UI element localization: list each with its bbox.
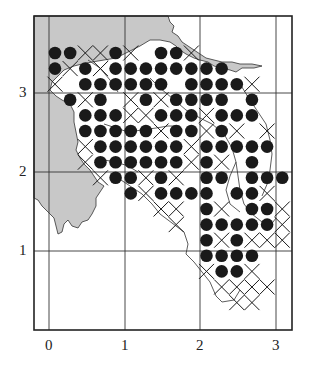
dot-marker-icon <box>231 218 244 231</box>
cross-marker-icon <box>260 186 275 201</box>
dot-marker-icon <box>94 78 107 91</box>
dot-marker-icon <box>185 78 198 91</box>
dot-marker-icon <box>124 78 137 91</box>
dot-marker-icon <box>215 172 228 185</box>
dot-marker-icon <box>170 187 183 200</box>
dot-marker-icon <box>246 140 259 153</box>
dot-marker-icon <box>200 250 213 263</box>
x-tick-label: 2 <box>196 338 204 353</box>
dot-marker-icon <box>246 187 259 200</box>
dot-marker-icon <box>231 250 244 263</box>
dot-marker-icon <box>246 94 259 107</box>
cross-marker-icon <box>199 124 214 139</box>
cross-marker-icon <box>154 124 169 139</box>
distribution-map <box>0 0 310 380</box>
dot-marker-icon <box>170 62 183 75</box>
cross-marker-icon <box>78 139 93 154</box>
dot-marker-icon <box>94 156 107 169</box>
dot-marker-icon <box>109 47 122 60</box>
dot-marker-icon <box>231 234 244 247</box>
cross-marker-icon <box>169 217 184 232</box>
dot-marker-icon <box>49 47 62 60</box>
dot-marker-icon <box>215 78 228 91</box>
dot-marker-icon <box>155 156 168 169</box>
cross-marker-icon <box>214 233 229 248</box>
dot-marker-icon <box>79 125 92 138</box>
cross-marker-icon <box>244 295 259 310</box>
cross-marker-icon <box>260 233 275 248</box>
dot-marker-icon <box>109 78 122 91</box>
dot-marker-icon <box>185 62 198 75</box>
dot-marker-icon <box>261 140 274 153</box>
dot-marker-icon <box>140 78 153 91</box>
dot-marker-icon <box>246 218 259 231</box>
dot-marker-icon <box>155 187 168 200</box>
dot-marker-icon <box>155 140 168 153</box>
cross-marker-icon <box>229 280 244 295</box>
dot-marker-icon <box>170 109 183 122</box>
dot-marker-icon <box>231 78 244 91</box>
dot-marker-icon <box>231 140 244 153</box>
dot-marker-icon <box>170 125 183 138</box>
cross-marker-icon <box>244 280 259 295</box>
dot-marker-icon <box>155 78 168 91</box>
dot-marker-icon <box>124 187 137 200</box>
dot-marker-icon <box>124 156 137 169</box>
x-tick-label: 1 <box>121 338 129 353</box>
dot-marker-icon <box>155 109 168 122</box>
dot-marker-icon <box>185 109 198 122</box>
cross-marker-icon <box>275 233 290 248</box>
dot-marker-icon <box>109 156 122 169</box>
dot-marker-icon <box>94 94 107 107</box>
dot-marker-icon <box>170 47 183 60</box>
dot-marker-icon <box>231 109 244 122</box>
dot-marker-icon <box>64 47 77 60</box>
y-tick-label: 1 <box>19 243 27 258</box>
dot-marker-icon <box>185 187 198 200</box>
dot-marker-icon <box>215 218 228 231</box>
dot-marker-icon <box>170 94 183 107</box>
dot-marker-icon <box>215 250 228 263</box>
dot-marker-icon <box>140 140 153 153</box>
x-tick-label: 3 <box>272 338 280 353</box>
cross-marker-icon <box>123 92 138 107</box>
cross-marker-icon <box>214 155 229 170</box>
dot-marker-icon <box>200 78 213 91</box>
dot-marker-icon <box>170 140 183 153</box>
dot-marker-icon <box>200 94 213 107</box>
dot-marker-icon <box>79 109 92 122</box>
dot-marker-icon <box>200 172 213 185</box>
cross-marker-icon <box>184 155 199 170</box>
cross-marker-icon <box>229 295 244 310</box>
cross-marker-icon <box>199 108 214 123</box>
cross-marker-icon <box>214 280 229 295</box>
dot-marker-icon <box>276 172 289 185</box>
dot-marker-icon <box>109 109 122 122</box>
dot-marker-icon <box>124 62 137 75</box>
cross-marker-icon <box>138 108 153 123</box>
dot-marker-icon <box>124 172 137 185</box>
dot-marker-icon <box>124 125 137 138</box>
dot-marker-icon <box>261 218 274 231</box>
dot-marker-icon <box>140 156 153 169</box>
dot-marker-icon <box>155 62 168 75</box>
dot-marker-icon <box>140 62 153 75</box>
cross-marker-icon <box>260 124 275 139</box>
cross-marker-icon <box>169 202 184 217</box>
dot-marker-icon <box>215 140 228 153</box>
dot-marker-icon <box>109 125 122 138</box>
dot-marker-icon <box>261 203 274 216</box>
dot-marker-icon <box>94 109 107 122</box>
dot-marker-icon <box>200 203 213 216</box>
dot-marker-icon <box>215 94 228 107</box>
dot-marker-icon <box>185 94 198 107</box>
dot-marker-icon <box>109 62 122 75</box>
dot-marker-icon <box>200 140 213 153</box>
cross-marker-icon <box>244 77 259 92</box>
dot-marker-icon <box>94 140 107 153</box>
dot-marker-icon <box>170 156 183 169</box>
dot-marker-icon <box>64 94 77 107</box>
dot-marker-icon <box>215 62 228 75</box>
dot-marker-icon <box>185 125 198 138</box>
dot-marker-icon <box>155 172 168 185</box>
